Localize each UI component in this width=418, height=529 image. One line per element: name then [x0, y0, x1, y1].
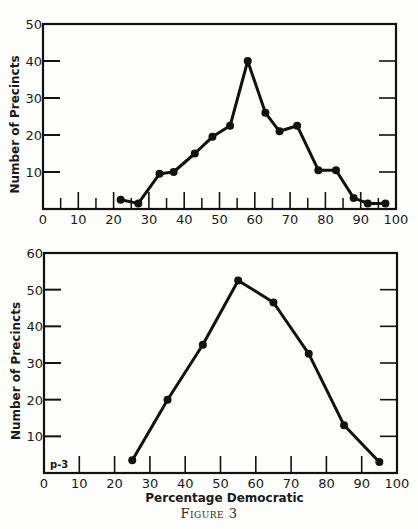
x-tick-label: 70 — [283, 476, 300, 491]
x-tick-label: 90 — [352, 212, 369, 227]
panel-annotation: p-3 — [50, 459, 68, 470]
x-tick-label: 0 — [40, 476, 48, 491]
x-tick-label: 20 — [105, 212, 122, 227]
data-point — [170, 168, 178, 176]
x-tick-label: 80 — [318, 476, 335, 491]
data-point — [340, 421, 348, 429]
x-tick-label: 60 — [247, 212, 264, 227]
y-tick-label: 60 — [26, 246, 43, 261]
y-tick-label: 30 — [25, 91, 42, 106]
data-point — [244, 57, 252, 65]
y-tick-label: 10 — [25, 165, 42, 180]
data-point — [134, 199, 142, 207]
series-line — [121, 61, 386, 203]
y-tick-label: 40 — [26, 319, 43, 334]
x-tick-label: 100 — [385, 476, 410, 491]
data-point — [128, 456, 136, 464]
y-tick-label: 50 — [25, 17, 42, 32]
data-point — [305, 350, 313, 358]
figure-caption: Figure 3 — [0, 506, 418, 521]
data-point — [226, 122, 234, 130]
data-point — [208, 133, 216, 141]
x-tick-label: 0 — [39, 212, 47, 227]
x-tick-label: 40 — [177, 476, 194, 491]
x-tick-label: 10 — [71, 476, 88, 491]
chart-top-precinct-distribution: 10203040500102030405060708090100Number o… — [8, 17, 408, 227]
x-tick-label: 80 — [317, 212, 334, 227]
x-tick-label: 10 — [70, 212, 87, 227]
x-tick-label: 50 — [212, 476, 229, 491]
chart-bottom-precinct-distribution: 1020304050600102030405060708090100Number… — [9, 246, 409, 505]
y-tick-label: 20 — [26, 393, 43, 408]
x-tick-label: 20 — [106, 476, 123, 491]
data-point — [164, 396, 172, 404]
figure: 10203040500102030405060708090100Number o… — [0, 0, 418, 529]
x-tick-label: 60 — [248, 476, 265, 491]
y-tick-label: 30 — [26, 356, 43, 371]
y-axis-title: Number of Precincts — [8, 55, 22, 193]
data-point — [117, 196, 125, 204]
x-tick-label: 30 — [141, 212, 158, 227]
x-axis-title: Percentage Democratic — [145, 491, 303, 505]
data-point — [269, 299, 277, 307]
x-tick-label: 70 — [282, 212, 299, 227]
data-point — [364, 199, 372, 207]
y-tick-label: 50 — [26, 283, 43, 298]
data-point — [234, 277, 242, 285]
data-point — [155, 170, 163, 178]
plot-frame — [44, 253, 397, 473]
data-point — [381, 199, 389, 207]
x-tick-label: 50 — [211, 212, 228, 227]
y-tick-label: 20 — [25, 128, 42, 143]
y-axis-title: Number of Precincts — [9, 302, 23, 440]
data-point — [199, 341, 207, 349]
x-tick-label: 40 — [176, 212, 193, 227]
data-point — [375, 458, 383, 466]
y-tick-label: 10 — [26, 429, 43, 444]
data-point — [350, 194, 358, 202]
series-line — [132, 281, 379, 463]
data-point — [314, 166, 322, 174]
x-tick-label: 100 — [384, 212, 409, 227]
data-point — [332, 166, 340, 174]
data-point — [293, 122, 301, 130]
x-tick-label: 30 — [142, 476, 159, 491]
data-point — [191, 150, 199, 158]
x-tick-label: 90 — [353, 476, 370, 491]
data-point — [261, 109, 269, 117]
data-point — [276, 127, 284, 135]
y-tick-label: 40 — [25, 54, 42, 69]
